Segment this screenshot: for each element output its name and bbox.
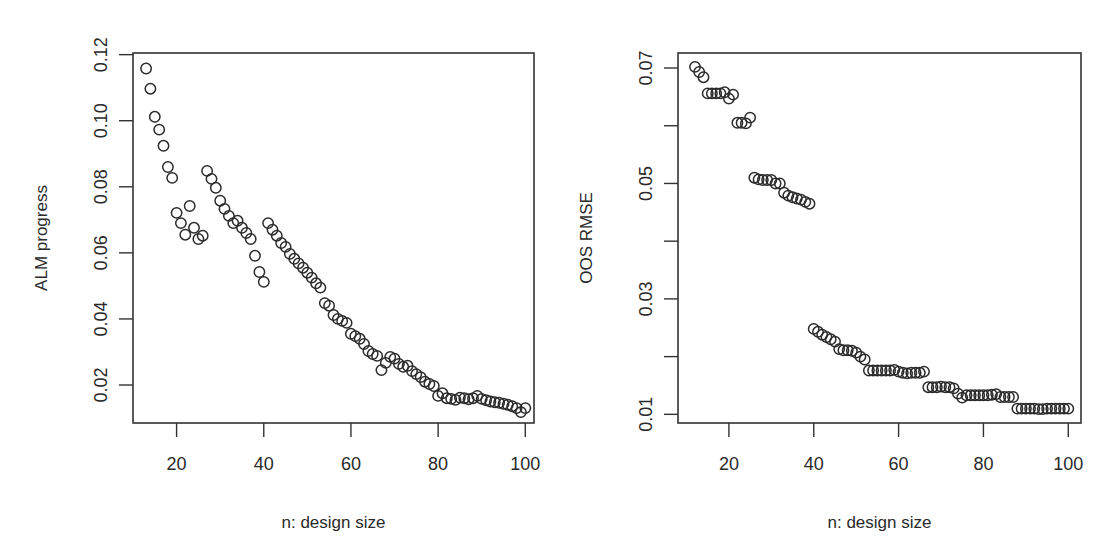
data-point xyxy=(154,124,164,134)
data-point xyxy=(250,251,260,261)
left-x-axis: 20406080100 xyxy=(167,423,541,474)
data-point xyxy=(180,230,190,240)
data-point xyxy=(145,84,155,94)
x-tick-label: 20 xyxy=(719,454,739,474)
y-tick-label: 0.12 xyxy=(91,37,111,72)
x-tick-label: 100 xyxy=(1053,454,1083,474)
right-panel-oos-rmse: 0.010.030.050.07 20406080100 n: design s… xyxy=(577,50,1083,532)
y-tick-label: 0.05 xyxy=(636,166,656,201)
y-tick-label: 0.10 xyxy=(91,103,111,138)
data-point xyxy=(211,183,221,193)
x-tick-label: 40 xyxy=(254,454,274,474)
x-tick-label: 80 xyxy=(428,454,448,474)
x-tick-label: 60 xyxy=(341,454,361,474)
data-point xyxy=(202,166,212,176)
y-tick-label: 0.07 xyxy=(636,50,656,85)
left-y-axis: 0.020.040.060.080.100.12 xyxy=(91,37,133,402)
data-point xyxy=(189,223,199,233)
data-point xyxy=(185,201,195,211)
y-tick-label: 0.03 xyxy=(636,281,656,316)
x-tick-label: 80 xyxy=(973,454,993,474)
y-tick-label: 0.08 xyxy=(91,169,111,204)
left-panel-alm-progress: 0.020.040.060.080.100.12 20406080100 n: … xyxy=(32,37,540,532)
y-tick-label: 0.02 xyxy=(91,367,111,402)
y-tick-label: 0.06 xyxy=(91,235,111,270)
x-tick-label: 60 xyxy=(889,454,909,474)
data-point xyxy=(254,267,264,277)
x-tick-label: 20 xyxy=(167,454,187,474)
y-tick-label: 0.04 xyxy=(91,301,111,336)
right-y-axis-label: OOS RMSE xyxy=(577,192,596,284)
left-y-axis-label: ALM progress xyxy=(32,185,51,291)
right-y-axis: 0.010.030.050.07 xyxy=(636,50,678,431)
figure: 0.020.040.060.080.100.12 20406080100 n: … xyxy=(0,0,1112,556)
data-point xyxy=(141,63,151,73)
data-point xyxy=(163,162,173,172)
x-tick-label: 100 xyxy=(510,454,540,474)
right-scatter-points xyxy=(690,62,1074,415)
right-x-axis: 20406080100 xyxy=(719,423,1083,474)
data-point xyxy=(171,208,181,218)
data-point xyxy=(315,282,325,292)
data-point xyxy=(259,277,269,287)
right-x-axis-label: n: design size xyxy=(828,513,932,532)
x-tick-label: 40 xyxy=(804,454,824,474)
left-x-axis-label: n: design size xyxy=(282,513,386,532)
data-point xyxy=(158,141,168,151)
data-point xyxy=(167,173,177,183)
data-point xyxy=(150,112,160,122)
y-tick-label: 0.01 xyxy=(636,397,656,432)
left-scatter-points xyxy=(141,63,531,417)
data-point xyxy=(176,218,186,228)
right-plot-frame xyxy=(678,53,1081,423)
